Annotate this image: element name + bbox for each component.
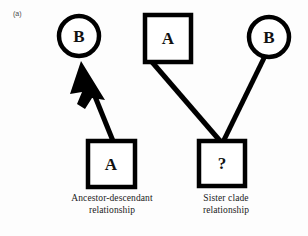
clade-branch-right	[223, 56, 265, 142]
ancestor-node-square-a	[88, 141, 135, 187]
sister-taxon-circle-b	[249, 17, 289, 57]
common-ancestor-square-unknown	[199, 141, 245, 186]
ancestor-descendant-arrow-shaft	[94, 94, 113, 141]
clade-branch-left	[152, 62, 221, 142]
caption-sister-clade: Sister clade relationship	[168, 192, 284, 216]
caption-sister-clade-line2: relationship	[168, 204, 284, 216]
descendant-node-circle-b	[59, 16, 99, 56]
caption-sister-clade-line1: Sister clade	[168, 192, 284, 204]
figure-panel: (a) B A A B ? Ancestor-descendant relati…	[0, 0, 308, 236]
sister-taxon-square-a	[145, 15, 191, 62]
